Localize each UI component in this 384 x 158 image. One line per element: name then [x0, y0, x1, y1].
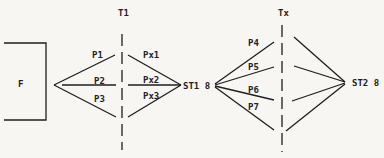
divider-tx-label: Tx: [278, 8, 289, 18]
path-p7-label: P7: [248, 102, 259, 112]
station-st2-label: ST2 8: [352, 78, 379, 88]
path-px2-label: Px2: [143, 75, 159, 85]
source-box-label: F: [18, 79, 23, 89]
divider-t1-label: T1: [118, 8, 129, 18]
path-p6-label: P6: [248, 85, 259, 95]
path-diagram: F P1 P2 P3 T1 Px1 Px2 Px3 ST1 8 P4 P5 P6…: [0, 0, 384, 158]
path-p5-label: P5: [248, 62, 259, 72]
path-p2-label: P2: [94, 76, 105, 86]
station-st1-label: ST1 8: [183, 81, 210, 91]
path-p4-label: P4: [248, 38, 259, 48]
path-p1-label: P1: [92, 50, 103, 60]
path-px1-label: Px1: [143, 50, 159, 60]
path-p3-label: P3: [94, 94, 105, 104]
path-px3-label: Px3: [143, 91, 159, 101]
background: [0, 0, 384, 158]
